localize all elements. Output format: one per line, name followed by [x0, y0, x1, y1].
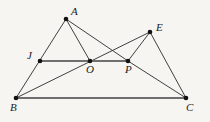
vertex-dot-E: [148, 30, 153, 35]
vertex-label-C: C: [186, 102, 193, 113]
vertex-label-E: E: [156, 22, 163, 33]
vertex-dot-A: [64, 17, 69, 22]
vertex-label-A: A: [71, 6, 78, 17]
segment-E-P: [128, 32, 150, 61]
vertex-label-J: J: [27, 50, 32, 61]
vertex-dot-C: [184, 96, 189, 101]
segment-A-O: [66, 19, 90, 61]
vertex-label-O: O: [86, 64, 94, 75]
geometry-canvas: [0, 0, 210, 122]
geometry-figure: AEJOPBC: [0, 0, 210, 122]
vertex-label-B: B: [10, 102, 17, 113]
segment-P-C: [128, 61, 186, 98]
segment-A-P: [66, 19, 128, 61]
segment-E-C: [150, 32, 186, 98]
vertex-dot-J: [38, 59, 43, 64]
vertex-dot-B: [14, 96, 19, 101]
vertex-label-P: P: [125, 64, 132, 75]
